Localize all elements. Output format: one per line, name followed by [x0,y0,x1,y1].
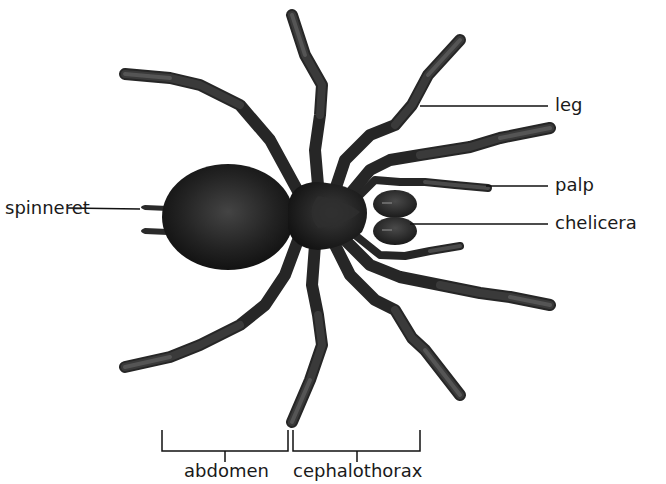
abdomen-shape [162,164,294,270]
label-spinneret: spinneret [5,199,90,217]
chelicera-upper [373,190,417,218]
label-palp: palp [555,176,594,194]
leg-lower-right [335,245,460,395]
label-leg: leg [555,96,583,114]
region-brackets [162,430,420,462]
leg-lower-center [292,245,322,422]
bracket-cephalothorax [293,430,420,451]
spider-anatomy-diagram: spinneret leg palp chelicera abdomen cep… [0,0,666,484]
leg-upper-right [335,40,460,190]
label-abdomen: abdomen [184,462,269,480]
label-chelicera: chelicera [555,214,637,232]
palp [355,180,488,200]
leg-upper-center [292,15,322,185]
chelicera-lower [373,217,417,245]
spider-illustration [0,0,666,484]
label-cephalothorax: cephalothorax [293,462,422,480]
bracket-abdomen [162,430,288,451]
